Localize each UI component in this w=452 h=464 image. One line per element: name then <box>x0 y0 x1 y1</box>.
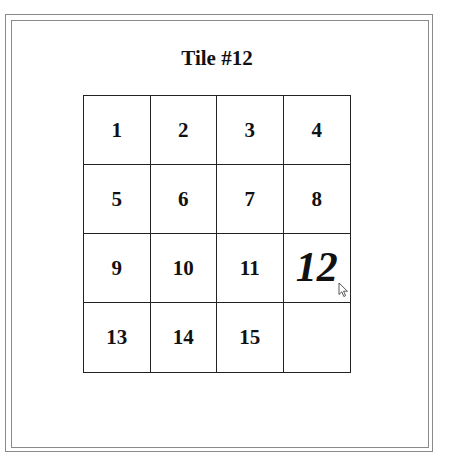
tile-2[interactable]: 2 <box>151 96 218 165</box>
page-title: Tile #12 <box>0 46 434 70</box>
empty-slot[interactable] <box>284 303 351 372</box>
tile-4[interactable]: 4 <box>284 96 351 165</box>
tile-1[interactable]: 1 <box>84 96 151 165</box>
tile-6[interactable]: 6 <box>151 165 218 234</box>
tile-10[interactable]: 10 <box>151 234 218 303</box>
tile-9[interactable]: 9 <box>84 234 151 303</box>
puzzle-grid: 1 2 3 4 5 6 7 8 9 10 11 12 13 14 15 <box>83 95 351 373</box>
tile-3[interactable]: 3 <box>217 96 284 165</box>
tile-7[interactable]: 7 <box>217 165 284 234</box>
tile-15[interactable]: 15 <box>217 303 284 372</box>
tile-11[interactable]: 11 <box>217 234 284 303</box>
tile-5[interactable]: 5 <box>84 165 151 234</box>
tile-12-selected[interactable]: 12 <box>284 234 351 303</box>
tile-13[interactable]: 13 <box>84 303 151 372</box>
tile-14[interactable]: 14 <box>151 303 218 372</box>
tile-8[interactable]: 8 <box>284 165 351 234</box>
